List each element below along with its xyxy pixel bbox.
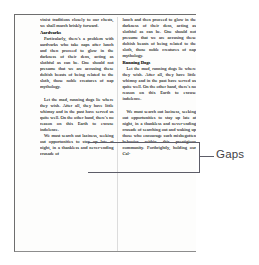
- text-column-left: vinist traditions closely to our chests,…: [40, 17, 118, 251]
- annotation-leader-line: [200, 156, 214, 157]
- paragraph-after-gap: We must search out laziness, seeking out…: [123, 109, 197, 157]
- paragraph: We must search out laziness, seeking out…: [40, 133, 114, 157]
- paragraph: Let the mad, running dogs lie where they…: [123, 66, 197, 102]
- paragraph: vinist traditions closely to our chests,…: [40, 17, 114, 29]
- page-left-margin: [15, 15, 39, 251]
- paragraph: Particularly, there's a problem with aar…: [40, 36, 114, 90]
- paragraph: lunch and then proceed to glow in the da…: [123, 17, 197, 59]
- scanned-page: vinist traditions closely to our chests,…: [14, 14, 196, 252]
- paragraph-after-gap: Let the mad, running dogs lie where they…: [40, 97, 114, 133]
- text-columns: vinist traditions closely to our chests,…: [40, 17, 196, 251]
- annotation-label-gaps: Gaps: [216, 148, 244, 160]
- text-column-right: lunch and then proceed to glow in the da…: [122, 17, 197, 251]
